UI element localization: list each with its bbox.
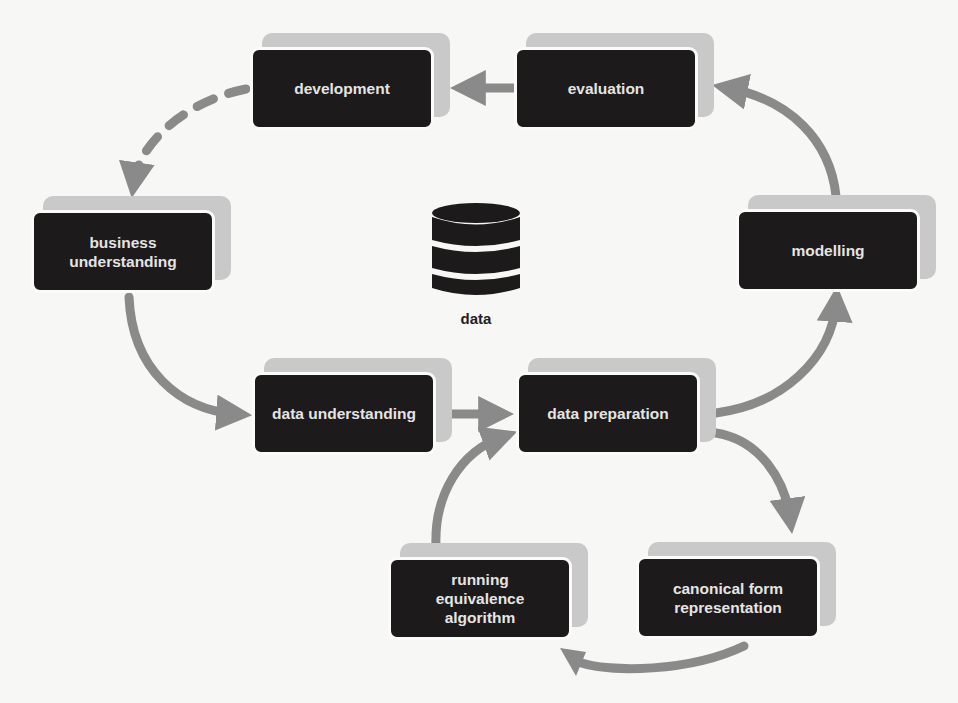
- data-store-label: data: [431, 310, 521, 327]
- database-icon: [431, 202, 521, 298]
- node-label: business understanding: [69, 233, 177, 271]
- node-label: running equivalence algorithm: [436, 570, 525, 627]
- node-running-equivalence-algorithm[interactable]: running equivalence algorithm: [391, 560, 569, 637]
- node-development[interactable]: development: [253, 50, 431, 127]
- node-box: data understanding: [252, 372, 436, 455]
- arrow-business-to-data-understanding: [129, 297, 236, 414]
- node-box: data preparation: [516, 372, 700, 455]
- node-box: business understanding: [31, 210, 215, 293]
- arrow-canonical-to-running-equivalence: [578, 646, 744, 669]
- arrow-running-equivalence-to-preparation: [436, 437, 502, 546]
- node-data-understanding[interactable]: data understanding: [255, 375, 433, 452]
- node-box: running equivalence algorithm: [388, 557, 572, 640]
- node-canonical-form-representation[interactable]: canonical form representation: [639, 559, 817, 636]
- node-modelling[interactable]: modelling: [739, 212, 917, 289]
- node-box: modelling: [736, 209, 920, 292]
- arrow-modelling-to-evaluation: [728, 88, 836, 196]
- node-label: data preparation: [547, 404, 668, 423]
- node-box: development: [250, 47, 434, 130]
- node-box: evaluation: [514, 47, 698, 130]
- node-data-preparation[interactable]: data preparation: [519, 375, 697, 452]
- node-label: data understanding: [272, 404, 416, 423]
- node-label: canonical form representation: [673, 579, 783, 617]
- node-box: canonical form representation: [636, 556, 820, 639]
- node-business-understanding[interactable]: business understanding: [34, 213, 212, 290]
- arrow-development-to-business-understanding: [134, 89, 246, 182]
- node-evaluation[interactable]: evaluation: [517, 50, 695, 127]
- node-label: development: [294, 79, 390, 98]
- node-label: modelling: [791, 241, 864, 260]
- arrow-data-preparation-to-modelling: [716, 302, 836, 413]
- node-label: evaluation: [568, 79, 645, 98]
- arrow-data-preparation-to-canonical: [716, 433, 790, 518]
